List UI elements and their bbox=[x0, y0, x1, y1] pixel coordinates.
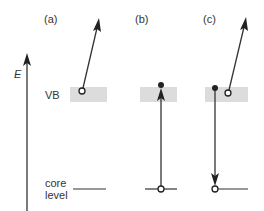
core-hole-icon bbox=[212, 186, 218, 192]
vb-label: VB bbox=[45, 89, 60, 101]
vb-band-a bbox=[70, 87, 107, 102]
hole-icon bbox=[225, 90, 231, 96]
panel-label-b: (b) bbox=[135, 13, 148, 25]
panel-c-transition bbox=[211, 17, 248, 192]
panel-a-transition bbox=[79, 18, 101, 94]
panel-b-transition bbox=[157, 82, 165, 192]
electron-icon bbox=[212, 85, 218, 91]
electron-icon bbox=[158, 82, 164, 88]
panel-label-c: (c) bbox=[203, 13, 216, 25]
core-label-line2: level bbox=[45, 189, 68, 201]
core-hole-icon bbox=[158, 186, 164, 192]
energy-axis: E bbox=[14, 53, 31, 211]
energy-axis-label: E bbox=[14, 68, 22, 80]
core-label-line1: core bbox=[45, 177, 66, 189]
panel-label-a: (a) bbox=[44, 13, 57, 25]
energy-level-diagram: E (a) (b) (c) VB core level bbox=[0, 0, 264, 211]
hole-icon bbox=[79, 88, 85, 94]
